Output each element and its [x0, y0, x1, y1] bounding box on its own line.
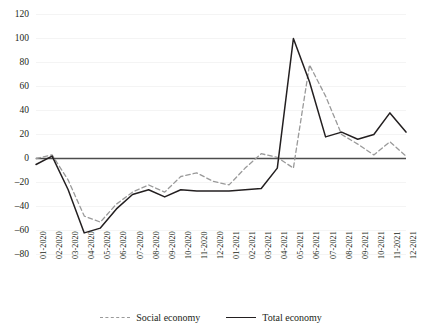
x-tick-label: 07-2021 — [330, 231, 338, 259]
x-tick-label: 04-2021 — [281, 231, 289, 259]
x-tick-label: 07-2020 — [137, 231, 145, 259]
legend-label-social-economy: Social economy — [136, 312, 200, 323]
x-tick-label: 04-2020 — [88, 231, 96, 259]
x-tick-label: 08-2021 — [346, 231, 354, 259]
series-lines — [36, 39, 406, 233]
y-tick-label: 0 — [3, 154, 29, 164]
x-tick-label: 09-2020 — [169, 231, 177, 259]
y-tick-label: –60 — [3, 226, 29, 236]
x-tick-label: 09-2021 — [362, 231, 370, 259]
legend-swatch-social-economy — [100, 317, 130, 318]
y-tick-label: 40 — [3, 106, 29, 116]
series-line-total-economy — [36, 39, 406, 233]
x-tick-label: 08-2020 — [153, 231, 161, 259]
x-tick-label: 05-2020 — [104, 231, 112, 259]
x-tick-label: 10-2020 — [185, 231, 193, 259]
series-line-social-economy — [36, 65, 406, 222]
x-tick-label: 03-2021 — [265, 231, 273, 259]
legend-label-total-economy: Total economy — [262, 312, 322, 323]
y-tick-label: –40 — [3, 202, 29, 212]
legend-item-social-economy: Social economy — [100, 312, 200, 323]
chart-legend: Social economy Total economy — [0, 312, 422, 323]
legend-swatch-total-economy — [226, 317, 256, 318]
x-tick-label: 11-2020 — [201, 231, 209, 259]
x-tick-label: 11-2021 — [394, 231, 402, 259]
y-tick-label: 20 — [3, 130, 29, 140]
y-tick-label: –80 — [3, 250, 29, 260]
x-tick-label: 05-2021 — [297, 231, 305, 259]
y-tick-label: 80 — [3, 58, 29, 68]
line-chart: 120100806040200–20–40–60–80 01-202002-20… — [0, 0, 422, 333]
x-tick-label: 12-2020 — [217, 231, 225, 259]
x-tick-label: 02-2020 — [56, 231, 64, 259]
y-tick-label: 120 — [3, 10, 29, 20]
x-tick-label: 06-2020 — [120, 231, 128, 259]
y-tick-label: –20 — [3, 178, 29, 188]
x-tick-label: 10-2021 — [378, 231, 386, 259]
y-tick-label: 60 — [3, 82, 29, 92]
x-tick-label: 03-2020 — [72, 231, 80, 259]
x-tick-label: 01-2020 — [40, 231, 48, 259]
plot-area — [0, 0, 422, 333]
x-tick-label: 12-2021 — [410, 231, 418, 259]
legend-item-total-economy: Total economy — [226, 312, 322, 323]
y-tick-label: 100 — [3, 34, 29, 44]
x-tick-label: 02-2021 — [249, 231, 257, 259]
x-tick-label: 06-2021 — [313, 231, 321, 259]
x-tick-label: 01-2021 — [233, 231, 241, 259]
